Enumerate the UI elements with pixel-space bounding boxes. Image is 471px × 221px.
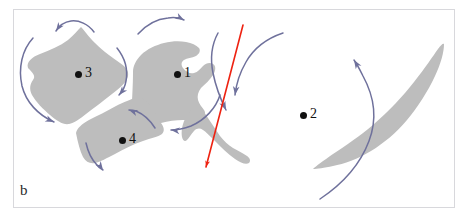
point-3-label: 3 bbox=[85, 66, 92, 80]
rotation-arrow-block-1-top-stroke bbox=[138, 18, 184, 34]
panel-letter: b bbox=[20, 183, 28, 198]
transport-arrow-block-1-bottom-head bbox=[171, 127, 180, 135]
crustal-blocks-layer bbox=[28, 27, 444, 169]
rotation-arrow-center-right bbox=[232, 33, 283, 95]
crustal-block-1-tail bbox=[182, 104, 250, 164]
point-2-label: 2 bbox=[310, 107, 317, 121]
point-3-dot bbox=[75, 71, 82, 78]
crustal-block-2-wedge bbox=[313, 44, 444, 169]
rotation-arrow-center-right-stroke bbox=[235, 33, 283, 95]
figure-drawing-canvas bbox=[0, 0, 471, 221]
rotation-arrow-block-1-top bbox=[138, 13, 186, 34]
rotation-arrow-block-2-right-head bbox=[351, 58, 361, 69]
figure-panel-b: 1234 b bbox=[0, 0, 471, 221]
rotation-arrow-block-2-right-stroke bbox=[320, 60, 374, 199]
point-4-dot bbox=[119, 137, 126, 144]
rotation-arrow-block-2-right bbox=[320, 58, 374, 199]
rotation-arrow-block-3-top bbox=[53, 21, 94, 33]
rotation-arrow-block-4-bottom-head bbox=[95, 161, 105, 172]
point-2-dot bbox=[300, 112, 307, 119]
point-1-label: 1 bbox=[184, 66, 191, 80]
point-4-label: 4 bbox=[129, 132, 136, 146]
point-1-dot bbox=[174, 71, 181, 78]
